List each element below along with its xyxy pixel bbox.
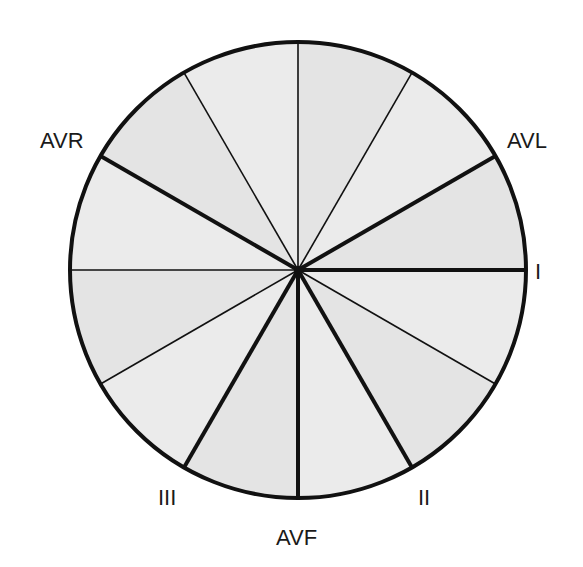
label-lead-ii: II bbox=[418, 487, 430, 509]
label-lead-iii: III bbox=[158, 487, 176, 509]
label-lead-avr: AVR bbox=[40, 130, 84, 152]
label-lead-avf: AVF bbox=[276, 527, 317, 549]
label-lead-avl: AVL bbox=[507, 130, 547, 152]
label-lead-i: I bbox=[535, 261, 541, 283]
center-point bbox=[294, 266, 302, 274]
hexaxial-diagram bbox=[0, 0, 583, 567]
